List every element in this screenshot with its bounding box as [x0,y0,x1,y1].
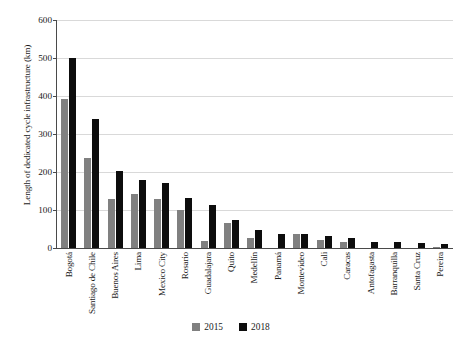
x-tick-label: Rosario [180,252,190,279]
bar [177,210,184,248]
x-tick-label: Caracas [342,252,352,280]
bar [108,199,115,248]
bar [61,99,68,248]
x-tick-label: Bogotá [64,252,74,277]
x-label-slot: Santiago de Chile [80,250,103,312]
y-tick-label: 200 [24,167,52,177]
bar-group [103,20,126,248]
legend-label: 2018 [251,322,270,332]
x-label-slot: Medellín [243,250,266,312]
bar-group [57,20,80,248]
chart-legend: 20152018 [0,322,462,332]
x-tick-label: Santa Cruz [412,252,422,291]
x-label-slot: Barranquilla [382,250,405,312]
bar [348,238,355,248]
legend-label: 2015 [204,322,223,332]
x-label-slot: Caracas [336,250,359,312]
x-label-slot: Guadalajara [196,250,219,312]
x-tick-label: Cali [319,252,329,267]
bar-group [429,20,452,248]
legend-swatch-icon [239,323,247,331]
x-tick-label: Panamá [273,252,283,280]
x-tick-label: Mexico City [157,252,167,296]
x-label-slot: Panamá [266,250,289,312]
x-label-slot: Bogotá [57,250,80,312]
y-tick-label: 0 [24,243,52,253]
bar [317,240,324,248]
bar-chart: Length of dedicated cycle infrastructure… [0,0,462,354]
x-label-slot: Pereira [429,250,452,312]
x-label-slot: Montevideo [289,250,312,312]
bar [139,180,146,248]
bar-group [266,20,289,248]
bar [84,158,91,248]
y-tick-label: 400 [24,91,52,101]
bar-group [382,20,405,248]
bar [69,58,76,248]
x-label-slot: Mexico City [150,250,173,312]
y-tick-label: 500 [24,53,52,63]
bar [247,238,254,248]
bar-series-container [57,20,452,248]
bar [278,234,285,248]
bar [92,119,99,248]
bar [232,220,239,248]
bar [185,198,192,248]
bar-group [336,20,359,248]
y-axis-tick-labels: 6005004003002001000 [22,0,52,354]
bar-group [150,20,173,248]
legend-item: 2018 [239,322,270,332]
x-label-slot: Rosario [173,250,196,312]
bar [209,205,216,248]
x-tick-label: Medellín [249,252,259,284]
x-label-slot: Santa Cruz [406,250,429,312]
bar [394,242,401,248]
bar-group [406,20,429,248]
y-tick-label: 100 [24,205,52,215]
bar [162,183,169,248]
x-label-slot: Quito [220,250,243,312]
bar [433,247,440,248]
bar-group [289,20,312,248]
x-tick-label: Quito [226,252,236,272]
x-label-slot: Buenos Aires [103,250,126,312]
x-tick-label: Barranquilla [389,252,399,296]
bar-group [80,20,103,248]
bar [131,194,138,248]
x-tick-label: Lima [133,252,143,271]
bar [116,171,123,248]
bar [325,236,332,248]
x-tick-label: Buenos Aires [110,252,120,299]
bar-group [173,20,196,248]
bar [255,230,262,248]
x-tick-label: Montevideo [296,252,306,294]
x-axis-tick-labels: BogotáSantiago de ChileBuenos AiresLimaM… [57,250,452,312]
bar [154,199,161,248]
bar-group [359,20,382,248]
bar [340,242,347,248]
legend-swatch-icon [192,323,200,331]
y-tick-label: 600 [24,15,52,25]
bar-group [313,20,336,248]
x-label-slot: Antofagasta [359,250,382,312]
y-tick-label: 300 [24,129,52,139]
bar-group [243,20,266,248]
bar [301,234,308,248]
bar [418,243,425,248]
bar [201,241,208,248]
x-tick-label: Pereira [435,252,445,277]
bar [293,234,300,248]
legend-item: 2015 [192,322,223,332]
bar-group [127,20,150,248]
x-axis-line [56,248,453,249]
bar [224,223,231,248]
bar [371,242,378,248]
bar [441,244,448,248]
x-label-slot: Lima [127,250,150,312]
x-tick-label: Antofagasta [366,252,376,294]
x-tick-label: Santiago de Chile [87,252,97,314]
x-label-slot: Cali [313,250,336,312]
bar-group [196,20,219,248]
bar-group [220,20,243,248]
x-tick-label: Guadalajara [203,252,213,294]
